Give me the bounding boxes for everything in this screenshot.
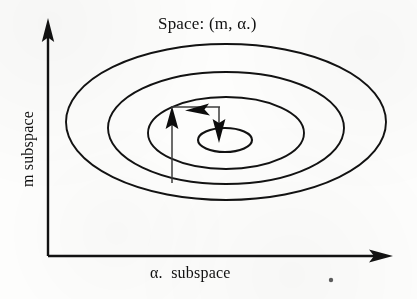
contour-ellipses-group — [66, 44, 386, 200]
x-axis-label: α. subspace — [150, 264, 231, 282]
figure-title: Space: (m, α.) — [158, 14, 257, 34]
figure-container: Space: (m, α.) α. subspace m subspace — [0, 0, 417, 299]
contour-ellipse-outer — [66, 44, 386, 200]
contour-plot-figure — [0, 0, 417, 299]
arrow-left-head-icon — [185, 104, 210, 116]
contour-ellipse-inner — [198, 128, 252, 152]
scan-speck-artifact — [329, 278, 333, 282]
y-axis-label: m subspace — [19, 89, 37, 209]
optimization-path-group — [166, 104, 226, 184]
